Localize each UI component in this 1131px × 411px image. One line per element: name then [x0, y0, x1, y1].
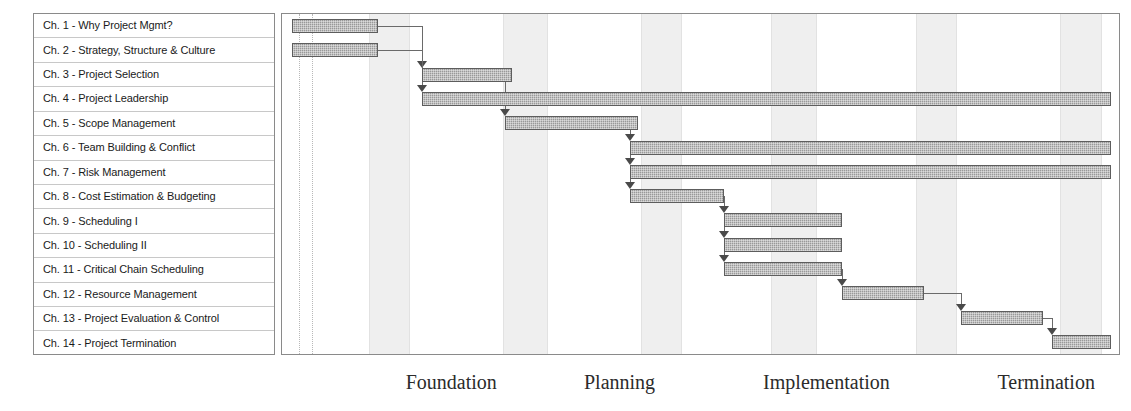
task-label: Ch. 12 - Resource Management: [43, 289, 197, 300]
period-band: [916, 14, 957, 354]
dependency-link-v: [724, 196, 725, 206]
dependency-arrowhead: [719, 255, 729, 262]
gantt-bar[interactable]: [961, 311, 1043, 325]
gantt-bar[interactable]: [422, 68, 512, 82]
task-row[interactable]: Ch. 11 - Critical Chain Scheduling: [34, 258, 274, 282]
gantt-bar[interactable]: [842, 286, 924, 300]
dependency-arrowhead: [417, 85, 427, 92]
dependency-arrowhead: [719, 231, 729, 238]
phase-label: Termination: [997, 371, 1094, 394]
task-label: Ch. 2 - Strategy, Structure & Culture: [43, 45, 215, 56]
dependency-arrowhead: [625, 158, 635, 165]
task-row[interactable]: Ch. 7 - Risk Management: [34, 161, 274, 185]
gantt-chart-panel: [281, 13, 1120, 355]
task-row[interactable]: Ch. 2 - Strategy, Structure & Culture: [34, 38, 274, 62]
gantt-bar[interactable]: [724, 213, 842, 227]
gantt-bar[interactable]: [724, 262, 842, 276]
dependency-link-v: [961, 293, 962, 303]
dependency-link-h: [924, 293, 961, 294]
period-band: [1060, 14, 1101, 354]
gantt-bar[interactable]: [292, 43, 378, 57]
gantt-bar[interactable]: [422, 92, 1111, 106]
dependency-link-v: [1052, 318, 1053, 328]
period-band: [503, 14, 548, 354]
dependency-link-h: [378, 50, 422, 51]
phase-label: Foundation: [406, 371, 497, 394]
gantt-bar[interactable]: [630, 165, 1110, 179]
gantt-chart-figure: Ch. 1 - Why Project Mgmt?Ch. 2 - Strateg…: [0, 0, 1131, 411]
dependency-arrowhead: [719, 206, 729, 213]
period-band: [641, 14, 682, 354]
gantt-bar[interactable]: [505, 116, 637, 130]
task-label: Ch. 10 - Scheduling II: [43, 240, 147, 251]
task-row[interactable]: Ch. 12 - Resource Management: [34, 283, 274, 307]
task-label: Ch. 9 - Scheduling I: [43, 216, 138, 227]
task-label: Ch. 3 - Project Selection: [43, 69, 159, 80]
dependency-link-h: [378, 26, 422, 27]
gantt-bar[interactable]: [724, 238, 842, 252]
task-row[interactable]: Ch. 4 - Project Leadership: [34, 87, 274, 111]
phase-label: Planning: [584, 371, 655, 394]
period-band: [771, 14, 817, 354]
dependency-arrowhead: [500, 109, 510, 116]
task-label: Ch. 14 - Project Termination: [43, 338, 176, 349]
gantt-bar[interactable]: [292, 19, 378, 33]
gantt-bar[interactable]: [630, 141, 1110, 155]
task-label: Ch. 8 - Cost Estimation & Budgeting: [43, 191, 216, 202]
task-row[interactable]: Ch. 10 - Scheduling II: [34, 234, 274, 258]
gantt-bar[interactable]: [630, 189, 724, 203]
task-label: Ch. 1 - Why Project Mgmt?: [43, 20, 173, 31]
task-label: Ch. 4 - Project Leadership: [43, 93, 168, 104]
task-row[interactable]: Ch. 5 - Scope Management: [34, 112, 274, 136]
task-label: Ch. 7 - Risk Management: [43, 167, 165, 178]
guide-line: [312, 14, 314, 354]
task-label: Ch. 11 - Critical Chain Scheduling: [43, 264, 204, 275]
dependency-arrowhead: [625, 182, 635, 189]
dependency-arrowhead: [625, 134, 635, 141]
task-row[interactable]: Ch. 8 - Cost Estimation & Budgeting: [34, 185, 274, 209]
dependency-arrowhead: [837, 279, 847, 286]
task-name-panel: Ch. 1 - Why Project Mgmt?Ch. 2 - Strateg…: [33, 13, 275, 355]
task-label: Ch. 5 - Scope Management: [43, 118, 175, 129]
dependency-link-v: [842, 269, 843, 279]
task-label: Ch. 6 - Team Building & Conflict: [43, 142, 195, 153]
task-row[interactable]: Ch. 13 - Project Evaluation & Control: [34, 307, 274, 331]
task-row[interactable]: Ch. 1 - Why Project Mgmt?: [34, 14, 274, 38]
task-row[interactable]: Ch. 14 - Project Termination: [34, 331, 274, 355]
gantt-bar[interactable]: [1052, 335, 1111, 349]
task-label: Ch. 13 - Project Evaluation & Control: [43, 313, 219, 324]
task-row[interactable]: Ch. 3 - Project Selection: [34, 63, 274, 87]
dependency-arrowhead: [1047, 328, 1057, 335]
task-row[interactable]: Ch. 6 - Team Building & Conflict: [34, 136, 274, 160]
phase-label: Implementation: [763, 371, 890, 394]
period-band: [369, 14, 410, 354]
task-row[interactable]: Ch. 9 - Scheduling I: [34, 209, 274, 233]
dependency-link-h: [1043, 318, 1052, 319]
guide-line: [299, 14, 301, 354]
dependency-arrowhead: [956, 304, 966, 311]
